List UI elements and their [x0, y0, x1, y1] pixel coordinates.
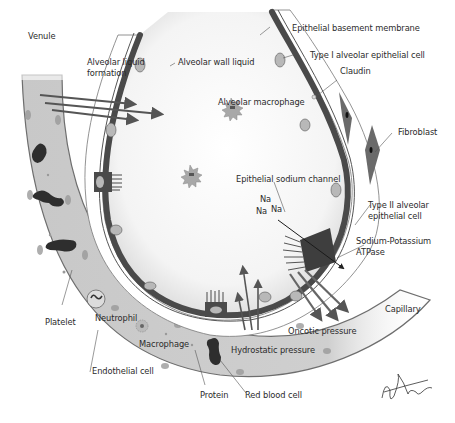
- label-hydrostatic-pressure: Hydrostatic pressure: [231, 345, 315, 355]
- label-alveolar-macrophage: Alveolar macrophage: [218, 97, 305, 107]
- label-epithelial-sodium-channel: Epithelial sodium channel: [236, 174, 340, 184]
- label-alveolar-liquid-formation-2: formation: [87, 68, 126, 78]
- alveolus-diagram: Venule Alveolar liquid formation Alveola…: [0, 0, 455, 423]
- label-type2-cell: Type II alveolar: [368, 200, 429, 210]
- label-na-1: Na: [260, 194, 271, 204]
- neutrophil: [87, 290, 105, 308]
- label-protein: Protein: [200, 390, 228, 400]
- label-macrophage: Macrophage: [139, 339, 189, 349]
- label-na-2: Na: [256, 206, 267, 216]
- label-epithelial-basement-membrane: Epithelial basement membrane: [292, 23, 420, 33]
- claudin-junction: [312, 95, 316, 99]
- label-sodium-potassium-atpase: Sodium-Potassium: [356, 236, 431, 246]
- label-platelet: Platelet: [45, 317, 76, 327]
- label-fibroblast: Fibroblast: [398, 127, 437, 137]
- label-endothelial-cell: Endothelial cell: [92, 366, 154, 376]
- label-claudin: Claudin: [340, 66, 371, 76]
- label-sodium-potassium-atpase-2: ATPase: [356, 247, 385, 257]
- label-na-3: Na: [271, 204, 282, 214]
- label-oncotic-pressure: Oncotic pressure: [288, 326, 356, 336]
- label-type1-cell: Type I alveolar epithelial cell: [310, 50, 425, 60]
- label-neutrophil: Neutrophil: [95, 313, 137, 323]
- label-type2-cell-2: epithelial cell: [368, 211, 422, 221]
- label-venule: Venule: [28, 31, 55, 41]
- label-red-blood-cell: Red blood cell: [245, 390, 302, 400]
- label-capillary: Capillary: [385, 304, 421, 314]
- red-blood-cell: [45, 239, 76, 251]
- label-alveolar-wall-liquid: Alveolar wall liquid: [178, 57, 254, 67]
- label-alveolar-liquid-formation: Alveolar liquid: [87, 57, 145, 67]
- artist-signature: [382, 374, 432, 399]
- interstitial-macrophage: [136, 320, 148, 332]
